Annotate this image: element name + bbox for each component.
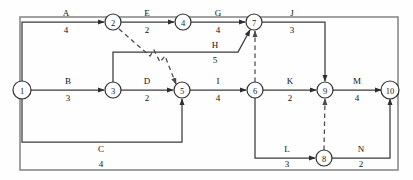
dummy-edge-8-to-9 [324, 99, 325, 150]
event-node-6: 6 [247, 82, 263, 98]
activity-name-i: I [217, 76, 220, 86]
event-node-3: 3 [105, 82, 121, 98]
activity-duration-k: 2 [288, 93, 293, 103]
activity-name-j: J [290, 8, 294, 18]
activity-name-d: D [144, 76, 151, 86]
activity-duration-e: 2 [145, 25, 150, 35]
event-node-label-7: 7 [252, 18, 256, 28]
activity-name-l: L [284, 144, 290, 154]
activity-name-g: G [215, 8, 222, 18]
activity-edge-c [22, 99, 182, 142]
event-node-9: 9 [317, 82, 333, 98]
activity-name-c: C [98, 144, 104, 154]
activity-duration-j: 3 [290, 25, 295, 35]
event-node-label-2: 2 [111, 18, 115, 28]
activity-duration-c: 4 [99, 159, 104, 169]
event-node-5: 5 [174, 82, 190, 98]
event-node-4: 4 [175, 14, 191, 30]
activity-name-n: N [358, 144, 365, 154]
event-node-label-5: 5 [180, 86, 184, 96]
event-node-2: 2 [105, 14, 121, 30]
event-node-8: 8 [316, 150, 332, 166]
activity-duration-i: 4 [216, 93, 221, 103]
activity-name-b: B [65, 76, 71, 86]
activity-duration-h: 5 [213, 55, 218, 65]
event-node-label-3: 3 [111, 86, 115, 96]
activity-duration-g: 4 [216, 25, 221, 35]
event-node-label-1: 1 [20, 86, 24, 96]
network-diagram-canvas: 12345678910 A4B3C4D2E2G4H5I4J3K2L3M4N2 [0, 0, 413, 180]
activity-duration-m: 4 [355, 93, 360, 103]
diagram-border [20, 17, 398, 170]
event-node-1: 1 [13, 81, 31, 99]
event-node-10: 10 [381, 81, 399, 99]
event-node-label-9: 9 [323, 86, 327, 96]
activity-duration-l: 3 [285, 159, 290, 169]
activity-edges-layer [22, 22, 390, 158]
activity-name-h: H [212, 40, 219, 50]
network-diagram: 12345678910 A4B3C4D2E2G4H5I4J3K2L3M4N2 [0, 0, 413, 180]
activity-duration-b: 3 [66, 93, 71, 103]
event-node-label-6: 6 [253, 86, 257, 96]
activity-name-e: E [144, 8, 150, 18]
activity-name-k: K [287, 76, 294, 86]
activity-name-a: A [63, 8, 70, 18]
event-node-label-10: 10 [386, 86, 395, 96]
activity-duration-d: 2 [145, 93, 150, 103]
event-node-label-8: 8 [322, 154, 326, 164]
activity-duration-a: 4 [64, 25, 69, 35]
activity-duration-n: 2 [359, 159, 364, 169]
activity-name-m: M [353, 76, 361, 86]
activity-edge-h [113, 30, 250, 82]
event-node-7: 7 [246, 14, 262, 30]
